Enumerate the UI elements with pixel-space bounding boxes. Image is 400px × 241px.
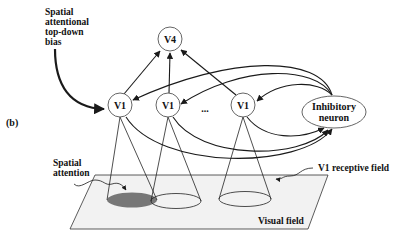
- spatial-attention-line1: Spatial: [53, 158, 82, 168]
- feedforward-arrows: [124, 50, 236, 95]
- inhibitory-label-line1: Inhibitory: [312, 101, 356, 112]
- v1-node-left: V1: [108, 93, 132, 117]
- spatial-attention-label: Spatial attention: [53, 158, 90, 178]
- visual-field-label: Visual field: [258, 216, 305, 226]
- v1-node-mid: V1: [156, 93, 180, 117]
- spatial-attention-line2: attention: [53, 168, 90, 178]
- top-down-label-line2: attentional: [45, 17, 89, 27]
- inhibitory-label-line2: neuron: [319, 112, 350, 123]
- v4-label: V4: [164, 34, 176, 45]
- top-down-label-line1: Spatial: [45, 7, 74, 17]
- inhibitory-neuron-node: Inhibitory neuron: [302, 96, 366, 128]
- panel-label: (b): [6, 117, 18, 129]
- excitatory-to-inhibitory-arrows: [126, 117, 332, 158]
- v4-node: V4: [158, 27, 182, 51]
- v1-right-label: V1: [237, 100, 249, 111]
- top-down-label-line3: top-down: [45, 27, 84, 37]
- receptive-field-label: V1 receptive field: [318, 163, 390, 173]
- top-down-bias-arrow: [55, 49, 104, 109]
- attention-diagram: V4 V1 V1 ... V1 Inhibitory neuron Spatia…: [0, 0, 400, 241]
- top-down-label-line4: bias: [45, 37, 62, 47]
- v1-mid-label: V1: [162, 100, 174, 111]
- v1-node-right: V1: [231, 93, 255, 117]
- attention-spot: [107, 193, 157, 208]
- ellipsis-label: ...: [201, 103, 209, 114]
- top-down-bias-label: Spatial attentional top-down bias: [45, 7, 89, 47]
- v1-left-label: V1: [114, 100, 126, 111]
